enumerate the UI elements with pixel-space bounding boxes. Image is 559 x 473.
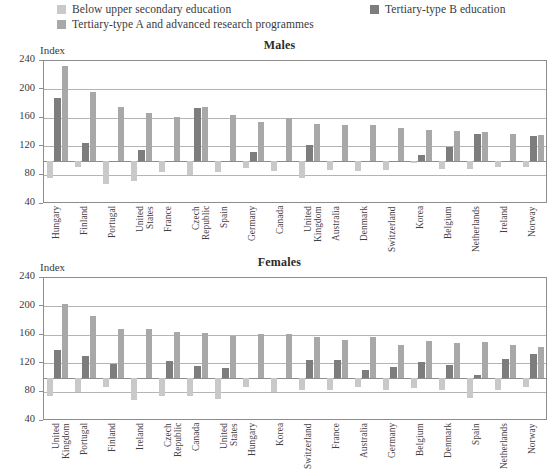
bar	[342, 125, 349, 161]
bar	[398, 128, 405, 161]
y-tick-mark	[39, 420, 43, 421]
bar	[286, 118, 293, 161]
gridline	[44, 89, 546, 90]
bar	[342, 340, 349, 378]
bar	[194, 108, 201, 161]
legend-item-tertiary-type-b: Tertiary-type B education	[370, 3, 505, 15]
bar	[54, 98, 61, 161]
bar	[47, 378, 54, 396]
bar	[54, 350, 61, 379]
bar	[538, 347, 545, 378]
bar	[174, 117, 181, 161]
bar	[258, 334, 265, 378]
y-tick-mark	[39, 362, 43, 363]
x-axis-label: Australia	[359, 423, 369, 473]
bar	[523, 161, 530, 167]
bar	[467, 161, 474, 169]
bar	[243, 378, 250, 387]
bar	[467, 378, 474, 398]
x-axis-label: Spain	[471, 423, 481, 473]
y-tick-mark	[39, 305, 43, 306]
bar	[510, 134, 517, 161]
bar	[383, 378, 390, 390]
x-axis-label: United Kingdom	[51, 423, 71, 473]
bar	[482, 132, 489, 161]
chart-legend: Below upper secondary education Tertiary…	[0, 0, 559, 36]
y-tick-mark	[39, 88, 43, 89]
plot-area-females	[43, 277, 547, 420]
bar	[75, 161, 82, 167]
bar	[243, 161, 250, 168]
bar	[314, 337, 321, 378]
bar	[314, 124, 321, 161]
bar	[202, 333, 209, 378]
chart-panel-females: Females Index United KingdomPortugalFinl…	[0, 255, 559, 473]
bar	[271, 378, 278, 392]
chart-title-females: Females	[0, 255, 559, 270]
y-tick-mark	[39, 145, 43, 146]
bar	[146, 113, 153, 161]
legend-item-below-upper-secondary: Below upper secondary education	[57, 3, 231, 15]
bar	[222, 368, 229, 378]
bar	[530, 136, 537, 161]
x-axis-label: Czech Republic	[163, 423, 183, 473]
x-axis-label: Hungary	[247, 423, 257, 473]
bar	[426, 341, 433, 378]
axis-label-index-males: Index	[40, 44, 65, 56]
bar	[530, 354, 537, 378]
bar	[47, 161, 54, 178]
gridline	[44, 175, 546, 176]
y-tick-label: 200	[11, 299, 35, 310]
bar	[286, 334, 293, 378]
bar	[446, 365, 453, 378]
bar	[426, 130, 433, 161]
bar	[103, 378, 110, 387]
bar	[110, 364, 117, 378]
bar	[502, 359, 509, 378]
x-axis-label: Korea	[275, 423, 285, 473]
y-tick-label: 80	[11, 167, 35, 178]
bar	[538, 135, 545, 161]
chart-panel-males: Males Index HungaryFinlandPortugalUnited…	[0, 38, 559, 253]
y-tick-label: 120	[11, 139, 35, 150]
bar	[495, 161, 502, 167]
gridline	[44, 306, 546, 307]
x-axis-labels-females: United KingdomPortugalFinlandIrelandCzec…	[0, 423, 559, 473]
bar	[250, 152, 257, 161]
y-tick-label: 160	[11, 110, 35, 121]
bar	[454, 343, 461, 378]
bar	[82, 143, 89, 162]
bar	[131, 161, 138, 181]
bar	[258, 122, 265, 161]
bar	[118, 329, 125, 378]
y-tick-mark	[39, 391, 43, 392]
bar	[62, 304, 69, 378]
bar	[194, 366, 201, 378]
bar	[159, 378, 166, 396]
legend-item-tertiary-type-a: Tertiary-type A and advanced research pr…	[57, 18, 314, 30]
y-tick-label: 120	[11, 356, 35, 367]
bar	[306, 360, 313, 379]
y-tick-label: 200	[11, 82, 35, 93]
bar	[230, 115, 237, 161]
x-axis-label: Canada	[191, 423, 201, 473]
bar	[355, 161, 362, 171]
bar	[446, 147, 453, 161]
y-tick-mark	[39, 334, 43, 335]
bar	[510, 345, 517, 378]
legend-swatch-tertiary-type-b	[370, 5, 379, 14]
bar	[418, 155, 425, 161]
bar	[495, 378, 502, 390]
plot-area-males	[43, 60, 547, 203]
legend-swatch-tertiary-type-a	[57, 20, 66, 29]
bar	[82, 356, 89, 378]
x-axis-label: Belgium	[415, 423, 425, 473]
bar	[131, 378, 138, 399]
x-axis-label: France	[331, 423, 341, 473]
bar	[327, 378, 334, 390]
legend-label-below-upper-secondary: Below upper secondary education	[72, 3, 231, 15]
bar	[454, 131, 461, 161]
bar	[187, 161, 194, 175]
bar	[439, 161, 446, 169]
bar	[90, 316, 97, 378]
